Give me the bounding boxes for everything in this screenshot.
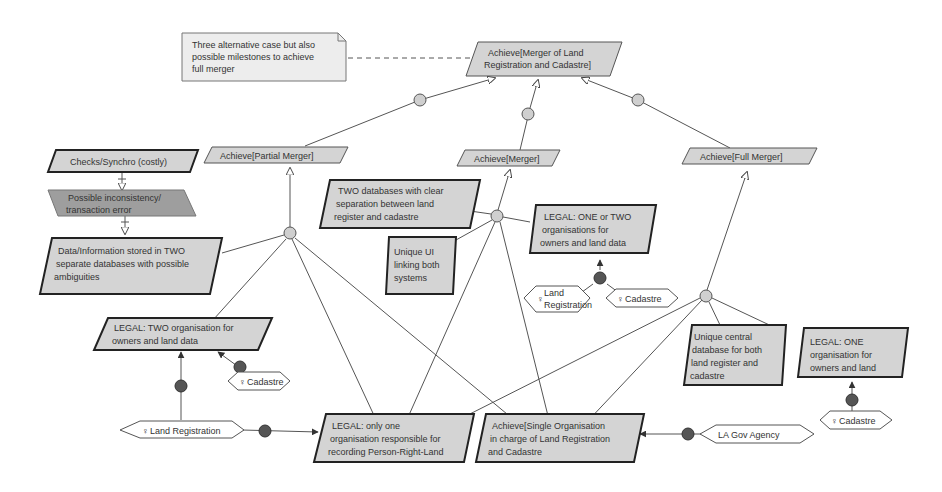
edge-full-node-unique-db (709, 302, 720, 325)
refinement-node-full[interactable] (700, 290, 712, 302)
goal-full-merger[interactable]: Achieve[Full Merger] (682, 148, 817, 164)
node-label: possible milestones to achieve (192, 52, 314, 62)
obstacle-checks-synchro[interactable]: Checks/Synchro (costly) (48, 150, 198, 172)
node-label: systems (394, 273, 428, 283)
edge-full-node-single-org (585, 300, 702, 424)
agent-la-gov-agency[interactable]: LA Gov Agency (700, 425, 814, 443)
node-label: land register and (691, 358, 758, 368)
node-label: organisation responsible for (330, 434, 441, 444)
obstacle-inconsistency[interactable]: Possible inconsistency/ transaction erro… (48, 190, 196, 216)
edge-full-to-top-arrow (582, 78, 638, 100)
agent-cadastre-right[interactable]: ♀ Cadastre (820, 411, 892, 429)
node-label: owners and land data (540, 238, 626, 248)
node-label: LEGAL: ONE or TWO (544, 212, 631, 222)
expectation-legal-only-one[interactable]: LEGAL: only one organisation responsible… (314, 414, 474, 462)
edge-merger-node-up (498, 170, 510, 210)
responsibility-node-mid[interactable] (594, 272, 606, 284)
refinement-node-partial[interactable] (284, 227, 296, 239)
node-label: separate databases with possible (56, 259, 189, 269)
node-label: Registration and Cadastre] (484, 60, 591, 70)
agent-icon: ♀ (831, 416, 838, 426)
node-label: register and cadastre (334, 212, 419, 222)
node-label: ambiguities (54, 272, 100, 282)
node-label: Achieve[Merger] (474, 154, 540, 164)
agent-cadastre-mid[interactable]: ♀ Cadastre (606, 289, 678, 307)
refinement-node-merger[interactable] (491, 210, 503, 222)
node-label: owners and land data (112, 336, 198, 346)
expectation-two-db-clear[interactable]: TWO databases with clear separation betw… (320, 180, 480, 228)
responsibility-node-cad-left[interactable] (234, 361, 246, 373)
edge-partial-node-data (222, 235, 284, 253)
node-label: Land (544, 288, 564, 298)
node-label: Achieve[Partial Merger] (220, 151, 314, 161)
node-label: Unique UI (394, 247, 434, 257)
note[interactable]: Three alternative case but also possible… (182, 33, 346, 81)
edge-partial-node-legal-only (292, 239, 378, 424)
node-label: separation between land (336, 199, 434, 209)
responsibility-node-lr-right[interactable] (259, 425, 271, 437)
expectation-legal-one-or-two[interactable]: LEGAL: ONE or TWO organisations for owne… (530, 205, 656, 253)
agent-icon: ♀ (142, 426, 149, 436)
node-label: organisation for (810, 350, 872, 360)
node-label: owners and land (810, 363, 876, 373)
node-label: in charge of Land Registration (490, 434, 610, 444)
expectation-legal-one[interactable]: LEGAL: ONE organisation for owners and l… (798, 328, 908, 377)
node-label: Cadastre (625, 294, 662, 304)
refinement-node-top-merger[interactable] (522, 108, 534, 120)
node-label: database for both (692, 345, 762, 355)
node-label: Achieve[Full Merger] (700, 152, 783, 162)
goal-top[interactable]: Achieve[Merger of Land Registration and … (466, 42, 622, 76)
goal-single-organisation[interactable]: Achieve[Single Organisation in charge of… (476, 414, 644, 462)
node-label: Three alternative case but also (192, 40, 315, 50)
node-label: organisations for (542, 225, 609, 235)
node-label: Cadastre (247, 377, 284, 387)
node-label: TWO databases with clear (338, 186, 444, 196)
agent-cadastre-left[interactable]: ♀ Cadastre (228, 372, 290, 390)
node-label: LA Gov Agency (718, 430, 780, 440)
node-label: Data/Information stored in TWO (58, 246, 185, 256)
node-label: LEGAL: only one (332, 421, 400, 431)
responsibility-node-cad-right[interactable] (846, 394, 858, 406)
node-label: Achieve[Single Organisation (492, 421, 605, 431)
node-label: LEGAL: ONE (810, 337, 864, 347)
expectation-unique-ui[interactable]: Unique UI linking both systems (386, 237, 456, 294)
goal-partial-merger[interactable]: Achieve[Partial Merger] (204, 147, 348, 163)
agent-land-registration-mid[interactable]: ♀ Land Registration (524, 286, 592, 312)
expectation-unique-central-db[interactable]: Unique central database for both land re… (684, 325, 786, 385)
node-label: and Cadastre (488, 447, 542, 457)
node-label: full merger (192, 64, 235, 74)
node-label: Checks/Synchro (costly) (70, 157, 167, 167)
node-label: transaction error (66, 205, 132, 215)
node-label: linking both (394, 260, 440, 270)
responsibility-node-lr-left[interactable] (175, 380, 187, 392)
goal-merger[interactable]: Achieve[Merger] (457, 150, 560, 166)
edge-partial-to-top-arrow (420, 78, 495, 100)
node-label: recording Person-Right-Land (328, 447, 444, 457)
node-label: Achieve[Merger of Land (488, 48, 584, 58)
edge-full-to-top (638, 100, 730, 148)
responsibility-node-la[interactable] (682, 428, 694, 440)
edge-full-node-up (707, 172, 747, 290)
goal-diagram: Three alternative case but also possible… (0, 0, 942, 492)
expectation-two-db-ambiguous[interactable]: Data/Information stored in TWO separate … (40, 238, 222, 294)
node-label: Cadastre (839, 416, 876, 426)
node-label: LEGAL: TWO organisation for (114, 323, 233, 333)
node-label: cadastre (690, 371, 725, 381)
agent-icon: ♀ (537, 294, 544, 304)
edge-agent-lr-left-right (242, 430, 318, 432)
node-label: Possible inconsistency/ (68, 193, 162, 203)
agent-icon: ♀ (617, 294, 624, 304)
node-label: Registration (544, 300, 592, 310)
node-label: Land Registration (150, 426, 221, 436)
refinement-node-top-full[interactable] (632, 94, 644, 106)
edge-partial-to-top (305, 100, 420, 146)
node-label: Unique central (694, 332, 752, 342)
expectation-legal-two[interactable]: LEGAL: TWO organisation for owners and l… (94, 318, 272, 350)
edge-merger-node-legal (503, 217, 530, 222)
agent-land-registration-bottom[interactable]: ♀ Land Registration (120, 421, 244, 438)
refinement-node-top-partial[interactable] (414, 94, 426, 106)
edge-merger-to-top-arrow (530, 80, 538, 108)
agent-icon: ♀ (239, 377, 246, 387)
edge-full-node-legal-only (450, 298, 700, 424)
